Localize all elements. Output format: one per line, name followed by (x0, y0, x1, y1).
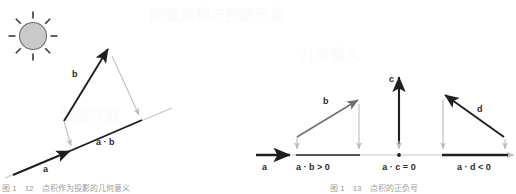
right-label-d: d (477, 104, 483, 114)
right-panel-caption: 图 1 13 点积的正负号 (330, 183, 418, 193)
left-label-a: a (43, 164, 49, 174)
left-panel-caption: 图 1 12 点积作为投影的几何意义 (2, 183, 130, 193)
case-zero-label: a · c = 0 (382, 162, 415, 172)
vector-a-arrow (13, 151, 70, 175)
case-positive-label: a · b > 0 (296, 162, 330, 172)
watermark-line-top: 向量点积与投影示意 (150, 6, 285, 23)
left-label-b: b (72, 69, 78, 79)
case-negative-label: a · d < 0 (457, 162, 491, 172)
figure-root: 向量点积与投影示意 几何意义 线性代数 (0, 0, 516, 193)
right-panel: a b a · b > 0 c (256, 74, 514, 193)
watermark-line-low: 线性代数 (60, 106, 121, 123)
left-panel: b a a · b 图 1 12 点积作为投影的几何意义 (2, 12, 172, 194)
right-label-a: a (262, 162, 268, 172)
projection-line-b-tail (64, 121, 71, 146)
vector-d-arrow (445, 95, 504, 137)
case-negative-group: d a · d < 0 (442, 95, 508, 172)
watermark-line-mid: 几何意义 (300, 46, 360, 63)
case-zero-group: c a · c = 0 (382, 74, 415, 172)
figure-canvas: 向量点积与投影示意 几何意义 线性代数 (0, 0, 516, 193)
case-zero-point (397, 153, 401, 157)
case-positive-group: b a · b > 0 (296, 96, 360, 172)
sun-icon (9, 12, 58, 61)
background-watermark: 向量点积与投影示意 几何意义 线性代数 (60, 6, 360, 123)
left-label-projection: a · b (96, 137, 115, 147)
right-label-b: b (323, 96, 329, 106)
right-label-c: c (389, 74, 394, 84)
